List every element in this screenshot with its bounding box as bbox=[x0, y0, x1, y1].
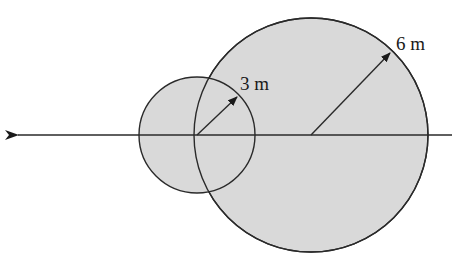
diagram-canvas: 3 m 6 m bbox=[0, 0, 462, 272]
small-radius-label: 3 m bbox=[240, 74, 269, 93]
circles-figure bbox=[0, 0, 462, 272]
large-radius-label: 6 m bbox=[396, 34, 425, 53]
